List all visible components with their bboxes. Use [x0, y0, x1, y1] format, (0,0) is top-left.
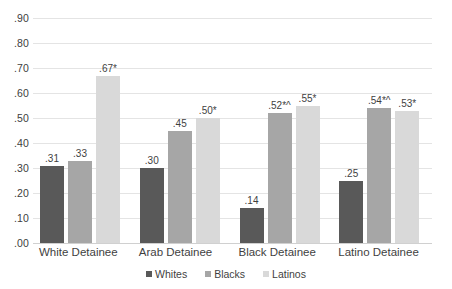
bar-slot: .50*: [196, 18, 220, 243]
bar-slot: .55*: [296, 18, 320, 243]
x-axis-tick-label: Latino Detainee: [332, 246, 432, 264]
bar-group-bars: .30.45.50*: [133, 18, 233, 243]
chart-legend: WhitesBlacksLatinos: [0, 268, 452, 280]
bar: [367, 108, 391, 243]
legend-label: Whites: [155, 268, 187, 280]
axis-baseline: [33, 243, 432, 244]
bar-slot: .67*: [96, 18, 120, 243]
bar-value-label: .33: [73, 148, 87, 159]
x-axis-tick-label: Black Detainee: [233, 246, 333, 264]
bar-groups: .31.33.67*.30.45.50*.14.52*^.55*.25.54*^…: [33, 18, 432, 243]
bar-value-label: .54*^: [368, 95, 391, 106]
x-axis-category-labels: White DetaineeArab DetaineeBlack Detaine…: [33, 246, 432, 264]
bar-slot: .33: [68, 18, 92, 243]
bar-slot: .53*: [395, 18, 419, 243]
y-axis-tick-label: .70: [14, 62, 29, 74]
bar-slot: .30: [140, 18, 164, 243]
bar-slot: .25: [339, 18, 363, 243]
bar-value-label: .31: [45, 153, 59, 164]
legend-label: Latinos: [272, 268, 306, 280]
bar-group: .30.45.50*: [133, 18, 233, 243]
bar: [96, 76, 120, 244]
legend-label: Blacks: [214, 268, 245, 280]
legend-swatch-icon: [263, 271, 269, 277]
y-axis-tick-label: .30: [14, 162, 29, 174]
bar-group: .31.33.67*: [33, 18, 133, 243]
bar: [268, 113, 292, 243]
bar: [339, 181, 363, 244]
bar-value-label: .25: [344, 168, 358, 179]
bar-slot: .52*^: [268, 18, 292, 243]
y-axis: .90.80.70.60.50.40.30.20.10.00: [0, 0, 33, 289]
bar-value-label: .53*: [398, 98, 416, 109]
x-axis-tick-label: White Detainee: [33, 246, 133, 264]
bar-value-label: .30: [145, 155, 159, 166]
bar-value-label: .67*: [99, 63, 117, 74]
legend-swatch-icon: [205, 271, 211, 277]
legend-swatch-icon: [146, 271, 152, 277]
y-axis-tick-label: .40: [14, 137, 29, 149]
bar: [140, 168, 164, 243]
y-axis-tick-label: .50: [14, 112, 29, 124]
y-axis-tick-label: .20: [14, 187, 29, 199]
bar-chart: .90.80.70.60.50.40.30.20.10.00 .31.33.67…: [0, 0, 452, 289]
bar: [395, 111, 419, 244]
legend-item[interactable]: Blacks: [205, 268, 245, 280]
bar-group-bars: .25.54*^.53*: [332, 18, 432, 243]
legend-item[interactable]: Whites: [146, 268, 187, 280]
bar: [68, 161, 92, 244]
bar-slot: .54*^: [367, 18, 391, 243]
y-axis-tick-label: .10: [14, 212, 29, 224]
bar-group: .14.52*^.55*: [233, 18, 333, 243]
bar-value-label: .14: [245, 195, 259, 206]
bar-group-bars: .14.52*^.55*: [233, 18, 333, 243]
y-axis-tick-label: .90: [14, 12, 29, 24]
bar-value-label: .52*^: [268, 100, 291, 111]
legend-item[interactable]: Latinos: [263, 268, 306, 280]
bar-slot: .14: [240, 18, 264, 243]
bar: [296, 106, 320, 244]
bar-value-label: .45: [173, 118, 187, 129]
y-axis-tick-label: .00: [14, 237, 29, 249]
bar: [240, 208, 264, 243]
bar-value-label: .50*: [199, 105, 217, 116]
bar: [196, 118, 220, 243]
bar: [168, 131, 192, 244]
x-axis-tick-label: Arab Detainee: [133, 246, 233, 264]
bar-group: .25.54*^.53*: [332, 18, 432, 243]
y-axis-tick-label: .60: [14, 87, 29, 99]
bar-slot: .45: [168, 18, 192, 243]
bar: [40, 166, 64, 244]
bar-value-label: .55*: [299, 93, 317, 104]
y-axis-tick-label: .80: [14, 37, 29, 49]
bar-slot: .31: [40, 18, 64, 243]
bar-group-bars: .31.33.67*: [33, 18, 133, 243]
